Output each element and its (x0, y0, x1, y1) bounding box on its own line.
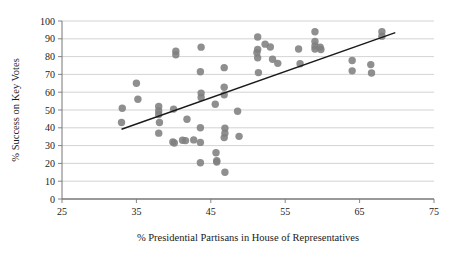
scatter-point (254, 54, 261, 61)
scatter-point (197, 43, 204, 50)
y-tick-label: 60 (45, 87, 55, 98)
y-axis-title: % Success on Key Votes (10, 58, 21, 161)
scatter-point (183, 116, 190, 123)
x-tick-label: 65 (355, 206, 365, 217)
scatter-point (348, 67, 355, 74)
x-tick-label: 35 (131, 206, 141, 217)
scatter-point (155, 129, 162, 136)
scatter-point (220, 134, 227, 141)
scatter-point (212, 149, 219, 156)
scatter-point (274, 60, 281, 67)
scatter-point (368, 69, 375, 76)
y-tick-label: 90 (45, 33, 55, 44)
scatter-point (255, 69, 262, 76)
scatter-point (220, 84, 227, 91)
x-tick-label: 55 (280, 206, 290, 217)
y-tick-label: 0 (50, 194, 55, 205)
scatter-point (311, 28, 318, 35)
scatter-point (197, 159, 204, 166)
scatter-point (317, 46, 324, 53)
scatter-point (295, 45, 302, 52)
scatter-point (235, 133, 242, 140)
scatter-point (133, 80, 140, 87)
scatter-point (220, 64, 227, 71)
y-tick-label: 10 (45, 176, 55, 187)
scatter-point (197, 68, 204, 75)
y-tick-label: 40 (45, 122, 55, 133)
scatter-point (190, 136, 197, 143)
y-tick-label: 100 (40, 16, 55, 27)
x-tick-label: 75 (429, 206, 439, 217)
y-tick-label: 70 (45, 69, 55, 80)
scatter-point (197, 124, 204, 131)
scatter-point (221, 169, 228, 176)
x-tick-label: 25 (57, 206, 67, 217)
scatter-point (119, 105, 126, 112)
scatter-point (197, 139, 204, 146)
scatter-point (156, 119, 163, 126)
scatter-point (171, 139, 178, 146)
scatter-point (172, 51, 179, 58)
y-tick-label: 20 (45, 158, 55, 169)
scatter-point (348, 57, 355, 64)
scatter-point (134, 96, 141, 103)
scatter-point (234, 108, 241, 115)
x-axis-title: % Presidential Partisans in House of Rep… (137, 232, 359, 243)
x-tick-label: 45 (206, 206, 216, 217)
y-tick-label: 50 (45, 105, 55, 116)
y-tick-label: 80 (45, 51, 55, 62)
scatter-point (213, 158, 220, 165)
scatter-point (212, 101, 219, 108)
scatter-plot-figure: 0102030405060708090100 253545556575 % Pr… (0, 0, 453, 253)
scatter-point (182, 137, 189, 144)
plot-canvas: 0102030405060708090100 253545556575 % Pr… (0, 0, 453, 253)
scatter-point (118, 119, 125, 126)
scatter-point (254, 33, 261, 40)
scatter-point (367, 61, 374, 68)
y-tick-label: 30 (45, 140, 55, 151)
scatter-point (267, 43, 274, 50)
